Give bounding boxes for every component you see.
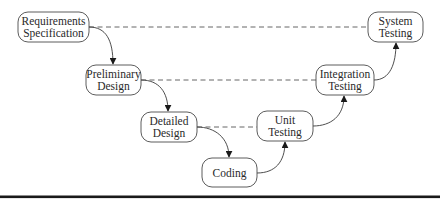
- node-label: System: [379, 15, 413, 28]
- node-label: Design: [153, 127, 186, 140]
- node-label: Testing: [379, 27, 413, 40]
- node-cod[interactable]: Coding: [202, 158, 257, 187]
- node-det[interactable]: DetailedDesign: [141, 112, 197, 142]
- node-label: Unit: [275, 114, 296, 126]
- node-pre[interactable]: PreliminaryDesign: [86, 65, 141, 95]
- node-label: Preliminary: [86, 68, 141, 81]
- bottom-rule: [0, 196, 440, 199]
- node-label: Detailed: [150, 115, 189, 127]
- node-label: Coding: [213, 167, 247, 180]
- node-sys[interactable]: SystemTesting: [368, 12, 423, 42]
- node-label: Integration: [320, 68, 371, 81]
- node-uni[interactable]: UnitTesting: [257, 111, 313, 141]
- flow-arrow-det-cod: [197, 127, 229, 157]
- nodes: RequirementsSpecificationPreliminaryDesi…: [18, 12, 423, 187]
- node-label: Testing: [328, 80, 362, 93]
- node-label: Specification: [23, 27, 84, 40]
- flow-arrow-int-sys: [374, 43, 396, 80]
- flow-edges: [89, 27, 396, 173]
- flow-arrow-req-pre: [89, 27, 113, 64]
- flow-arrow-cod-uni: [257, 142, 285, 173]
- node-int[interactable]: IntegrationTesting: [316, 65, 374, 95]
- node-label: Requirements: [22, 15, 86, 28]
- node-label: Design: [97, 80, 130, 93]
- v-model-diagram: RequirementsSpecificationPreliminaryDesi…: [0, 0, 440, 203]
- flow-arrow-uni-int: [313, 96, 344, 126]
- node-req[interactable]: RequirementsSpecification: [18, 12, 89, 42]
- flow-arrow-pre-det: [141, 80, 168, 111]
- node-label: Testing: [268, 126, 302, 139]
